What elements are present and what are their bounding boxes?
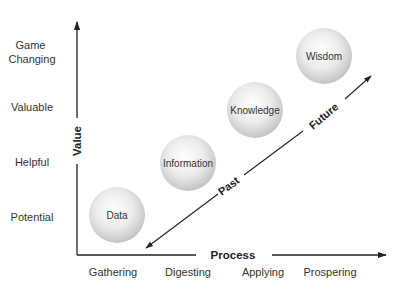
y-level-game-changing-line2: Changing (8, 53, 55, 65)
y-axis-levels: Game Changing Valuable Helpful Potential (8, 39, 55, 223)
node-information-label: Information (163, 158, 213, 169)
y-level-potential: Potential (11, 211, 54, 223)
node-information: Information (160, 135, 216, 191)
node-knowledge-label: Knowledge (230, 105, 280, 116)
y-axis-title: Value (71, 126, 83, 156)
node-data: Data (89, 187, 145, 243)
node-data-label: Data (106, 210, 128, 221)
x-stage-applying: Applying (242, 266, 284, 278)
y-level-helpful: Helpful (15, 156, 49, 168)
x-axis-title: Process (211, 249, 256, 261)
y-level-game-changing-line1: Game (15, 39, 45, 51)
timeline-past-label: Past (216, 174, 242, 198)
timeline-future-label: Future (306, 100, 340, 131)
x-axis-stages: Gathering Digesting Applying Prospering (89, 266, 357, 278)
timeline-future-segment (345, 76, 371, 99)
nodes: Data Information Knowledge Wisdom (89, 28, 352, 243)
y-axis: Value (71, 22, 83, 255)
node-wisdom: Wisdom (296, 28, 352, 84)
node-wisdom-label: Wisdom (306, 51, 342, 62)
dikw-diagram: Value Game Changing Valuable Helpful Pot… (0, 0, 401, 297)
x-axis: Process (77, 249, 386, 261)
y-level-valuable: Valuable (11, 101, 53, 113)
x-stage-prospering: Prospering (303, 266, 356, 278)
y-level-game-changing: Game Changing (8, 39, 55, 65)
timeline-past-segment (146, 194, 218, 248)
x-stage-digesting: Digesting (165, 266, 211, 278)
node-knowledge: Knowledge (227, 82, 283, 138)
x-stage-gathering: Gathering (89, 266, 137, 278)
